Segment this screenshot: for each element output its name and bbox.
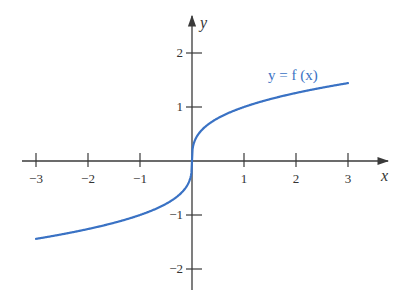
x-tick-label: 2 xyxy=(293,171,300,186)
x-tick-label: −3 xyxy=(29,171,43,186)
x-tick-label: −2 xyxy=(81,171,95,186)
y-axis-label: y xyxy=(198,14,208,32)
y-tick-label: 2 xyxy=(177,45,184,60)
plot-canvas: −3−2−1123 −2−112 x y y = f (x) xyxy=(0,0,412,299)
x-axis-label: x xyxy=(380,167,388,184)
axes xyxy=(22,16,388,290)
y-tick-label: 1 xyxy=(177,99,184,114)
curve-label: y = f (x) xyxy=(268,67,318,84)
y-tick-label: −2 xyxy=(169,261,183,276)
x-tick-label: −1 xyxy=(133,171,147,186)
x-tick-label: 1 xyxy=(241,171,248,186)
x-tick-label: 3 xyxy=(345,171,352,186)
y-tick-label: −1 xyxy=(169,207,183,222)
